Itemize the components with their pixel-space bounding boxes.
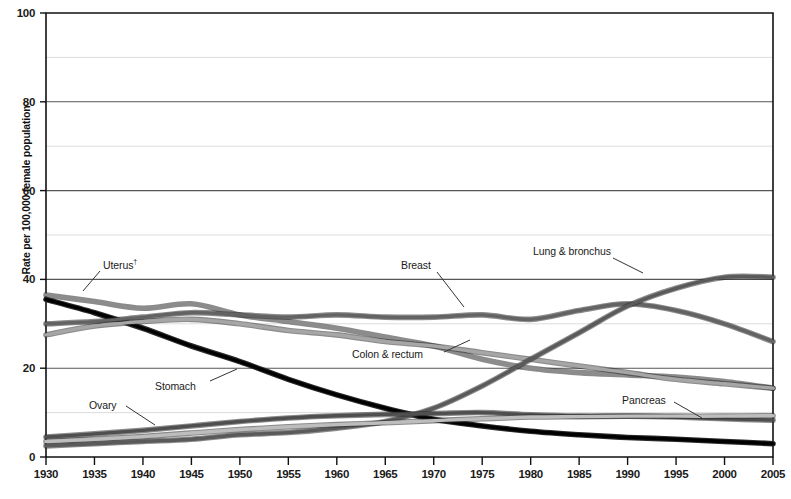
- x-axis-tick-label: 1985: [567, 468, 591, 480]
- x-axis-tick-label: 1995: [664, 468, 688, 480]
- y-axis-tick-label: 20: [0, 362, 35, 374]
- annotation-leader-line: [83, 271, 100, 291]
- x-axis-tick-label: 1945: [179, 468, 203, 480]
- y-axis-tick-label: 100: [0, 7, 35, 19]
- x-axis-tick-label: 2005: [761, 468, 785, 480]
- x-axis-tick-label: 1935: [82, 468, 106, 480]
- series-label-uterus: Uterus†: [103, 258, 137, 271]
- x-axis-tick-label: 1980: [518, 468, 542, 480]
- series-label-colon-rectum: Colon & rectum: [352, 348, 423, 360]
- annotation-leader-line: [126, 406, 155, 425]
- y-axis-tick-label: 80: [0, 96, 35, 108]
- x-axis-tick-label: 1930: [34, 468, 58, 480]
- x-axis-tick-label: 1975: [470, 468, 494, 480]
- footnote-marker: †: [133, 258, 137, 265]
- y-axis-tick-label: 0: [0, 451, 35, 463]
- x-axis-tick-label: 1965: [373, 468, 397, 480]
- x-axis-tick-label: 1970: [422, 468, 446, 480]
- series-label-ovary: Ovary: [89, 399, 117, 411]
- series-label-breast: Breast: [401, 259, 431, 271]
- x-axis-tick-label: 1950: [228, 468, 252, 480]
- annotation-leader-line: [613, 258, 643, 273]
- annotation-leader-line: [437, 272, 464, 307]
- y-axis-tick-label: 40: [0, 273, 35, 285]
- chart-plot-area: [0, 0, 791, 499]
- x-axis-tick-label: 2000: [712, 468, 736, 480]
- annotation-leader-line: [210, 369, 237, 381]
- x-axis-tick-label: 1990: [615, 468, 639, 480]
- chart-figure: Rate per 100,000 female population 02040…: [0, 0, 791, 499]
- y-axis-tick-label: 60: [0, 185, 35, 197]
- x-axis-tick-label: 1960: [325, 468, 349, 480]
- x-axis-tick-label: 1955: [276, 468, 300, 480]
- series-label-pancreas: Pancreas: [622, 394, 666, 406]
- series-label-lung-bronchus: Lung & bronchus: [533, 245, 611, 257]
- x-axis-tick-label: 1940: [131, 468, 155, 480]
- series-label-stomach: Stomach: [155, 380, 196, 392]
